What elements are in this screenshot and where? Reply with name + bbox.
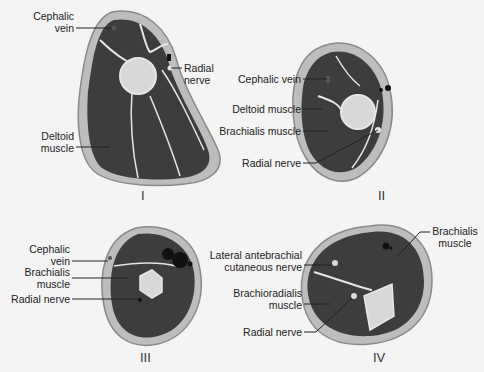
label-line: Cephalic (18, 10, 74, 22)
label-radial-nerve-iii: Radial nerve (0, 293, 70, 305)
label-radial-nerve-ii: Radial nerve (200, 157, 301, 169)
cross-section-figure (0, 0, 484, 372)
label-brachialis-muscle-iii: Brachialis muscle (10, 266, 70, 290)
label-line: muscle (10, 278, 70, 290)
label-line: Brachioradialis (196, 287, 302, 299)
label-cephalic-vein-iii: Cephalic vein (10, 243, 70, 267)
label-cephalic-vein-ii: Cephalic vein (200, 73, 301, 85)
panel-ii-cross-section (293, 43, 392, 181)
panel-numeral-ii: II (378, 188, 385, 203)
label-line: Cephalic (10, 243, 70, 255)
label-cephalic-vein-i: Cephalic vein (18, 10, 74, 34)
panel-iii-cross-section (102, 227, 201, 346)
label-line: Brachialis (428, 225, 482, 237)
label-deltoid-muscle-i: Deltoid muscle (18, 130, 74, 154)
panel-numeral-i: I (141, 188, 145, 203)
panel-i-cross-section (78, 11, 220, 185)
label-brachialis-muscle-ii: Brachialis muscle (200, 125, 301, 137)
panel-numeral-iii: III (140, 350, 151, 365)
panel-numeral-iv: IV (373, 350, 385, 365)
label-brachioradialis-muscle: Brachioradialis muscle (196, 287, 302, 311)
label-line: muscle (428, 237, 482, 249)
label-line: muscle (18, 142, 74, 154)
label-lateral-antebrachial-cutaneous-nerve: Lateral antebrachial cutaneous nerve (196, 249, 302, 273)
label-line: vein (18, 22, 74, 34)
label-line: Deltoid (18, 130, 74, 142)
label-radial-nerve-iv: Radial nerve (196, 326, 302, 338)
label-brachialis-muscle-iv: Brachialis muscle (428, 225, 482, 249)
label-line: cutaneous nerve (196, 261, 302, 273)
label-line: Lateral antebrachial (196, 249, 302, 261)
label-deltoid-muscle-ii: Deltoid muscle (200, 103, 301, 115)
label-line: Brachialis (10, 266, 70, 278)
label-line: muscle (196, 299, 302, 311)
